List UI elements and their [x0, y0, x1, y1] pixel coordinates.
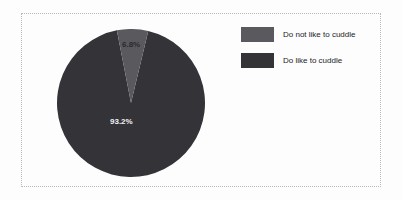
legend-swatch-icon-do-not-like-to-cuddle: [241, 27, 274, 42]
legend-item-do-like-to-cuddle[interactable]: Do like to cuddle: [241, 53, 377, 68]
legend-label-do-not-like-to-cuddle: Do not like to cuddle: [283, 27, 356, 42]
pie-chart-plot-area: 6.8% 93.2% Do not like to cuddle Do like…: [0, 0, 402, 200]
legend-label-do-like-to-cuddle: Do like to cuddle: [283, 53, 342, 68]
pie-label-do-like-to-cuddle: 93.2%: [110, 117, 133, 126]
legend-swatch-icon-do-like-to-cuddle: [241, 53, 274, 68]
pie-chart-graphic: [57, 29, 205, 177]
legend-item-do-not-like-to-cuddle[interactable]: Do not like to cuddle: [241, 27, 377, 42]
chart-legend: Do not like to cuddle Do like to cuddle: [241, 27, 377, 79]
pie-label-do-not-like-to-cuddle: 6.8%: [122, 40, 140, 49]
